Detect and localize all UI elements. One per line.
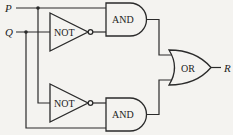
and-gate-bottom-label: AND <box>112 109 134 120</box>
input-p-label: P <box>4 2 12 14</box>
logic-circuit-diagram: P Q NOT AND NOT AND OR R <box>0 0 233 135</box>
wire-p-branch <box>38 8 50 103</box>
not-gate-bottom-label: NOT <box>54 98 75 109</box>
or-gate: OR <box>169 50 211 85</box>
junction-q <box>24 30 28 34</box>
not-gate-top-label: NOT <box>54 27 75 38</box>
and-gate-top-label: AND <box>112 14 134 25</box>
circuit-canvas: P Q NOT AND NOT AND OR R <box>0 0 233 135</box>
and-gate-top: AND <box>106 3 147 36</box>
output-r-label: R <box>223 62 231 74</box>
not-gate-top: NOT <box>50 13 93 51</box>
junction-p <box>36 6 40 10</box>
input-q-label: Q <box>5 26 13 38</box>
and-gate-bottom: AND <box>106 98 147 131</box>
or-gate-label: OR <box>181 63 195 74</box>
not-gate-bottom: NOT <box>50 84 93 122</box>
